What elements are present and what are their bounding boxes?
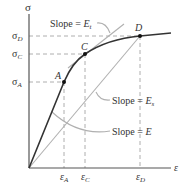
point-a-marker <box>62 80 66 84</box>
sigma-a-label: σA <box>12 76 22 89</box>
tangent-slope-arc <box>97 23 110 33</box>
tangent-slope-label: Slope = Et <box>50 18 93 31</box>
eps-c-label: εC <box>81 171 90 184</box>
point-c-marker <box>83 52 87 56</box>
point-a-label: A <box>54 70 62 81</box>
y-axis-label: σ <box>25 1 31 13</box>
sigma-c-label: σC <box>12 48 22 61</box>
elastic-slope-label: Slope = E <box>112 126 152 137</box>
axes <box>29 14 171 168</box>
point-c-label: C <box>81 41 88 52</box>
secant-slope-arc <box>96 92 110 100</box>
elastic-slope-arc <box>52 112 110 132</box>
sigma-d-label: σD <box>12 30 22 43</box>
x-axis-label: ε <box>174 162 178 173</box>
secant-slope-label: Slope = Es <box>112 95 155 108</box>
eps-a-label: εA <box>60 171 69 184</box>
point-d-marker <box>138 34 142 38</box>
point-d-label: D <box>134 22 143 33</box>
eps-d-label: εD <box>136 171 145 184</box>
stress-strain-diagram: σ ε σD σC σA εA εC εD A C D Slope = Et S… <box>0 0 193 185</box>
